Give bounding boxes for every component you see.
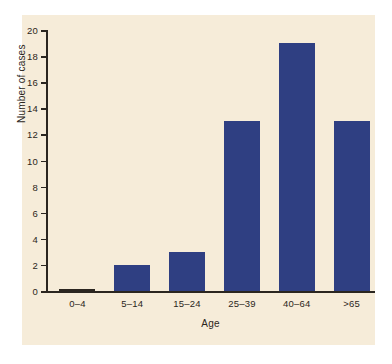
bar-zero (59, 289, 95, 291)
y-axis-tick-label: 14 (27, 103, 38, 114)
plot-area: 02468101214161820 0–45–1415–2425–3940–64… (46, 30, 375, 291)
y-axis-tick-label: 2 (33, 259, 38, 270)
y-axis-tick-mark (41, 213, 46, 215)
y-axis-tick-label: 12 (27, 129, 38, 140)
x-axis-tick-label: 25–39 (228, 298, 255, 309)
y-axis-tick-label: 8 (33, 181, 38, 192)
y-axis-tick-mark (41, 265, 46, 267)
y-axis-tick-label: 6 (33, 207, 38, 218)
bar (279, 43, 315, 291)
y-axis-tick-mark (41, 82, 46, 84)
x-axis-line (46, 291, 375, 293)
x-axis-tick-label: >65 (343, 298, 360, 309)
y-axis-title: Number of cases (16, 44, 27, 123)
y-axis-tick-label: 16 (27, 77, 38, 88)
y-axis-tick-mark (41, 30, 46, 32)
y-axis-tick-mark (41, 161, 46, 163)
x-axis-tick-label: 5–14 (121, 298, 143, 309)
x-axis-tick-label: 15–24 (173, 298, 200, 309)
y-axis-tick-label: 4 (33, 233, 38, 244)
plot-panel: 02468101214161820 0–45–1415–2425–3940–64… (22, 15, 375, 345)
y-axis-tick-mark (41, 291, 46, 293)
bar (224, 121, 260, 291)
bar (334, 121, 370, 291)
bar (114, 265, 150, 291)
figure: 02468101214161820 0–45–1415–2425–3940–64… (0, 0, 392, 364)
y-axis-tick-mark (41, 134, 46, 136)
y-axis-tick-label: 10 (27, 155, 38, 166)
x-axis-tick-label: 40–64 (283, 298, 310, 309)
y-axis-tick-mark (41, 56, 46, 58)
y-axis-tick-mark (41, 108, 46, 110)
y-axis-tick-mark (41, 239, 46, 241)
x-axis-tick-label: 0–4 (69, 298, 85, 309)
y-axis-tick-mark (41, 187, 46, 189)
y-axis-tick-label: 0 (33, 286, 38, 297)
bar (169, 252, 205, 291)
y-axis-line (46, 30, 48, 291)
x-axis-title: Age (46, 318, 375, 329)
y-axis-tick-label: 20 (27, 25, 38, 36)
y-axis-tick-label: 18 (27, 51, 38, 62)
